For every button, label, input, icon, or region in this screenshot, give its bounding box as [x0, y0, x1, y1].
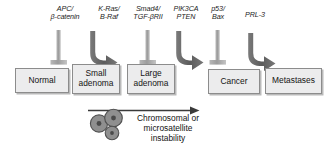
gene-label-kras: K-Ras/ B-Raf — [90, 5, 128, 22]
cell-cluster — [90, 109, 122, 140]
gene-label-p53: p53/ Bax — [203, 5, 233, 22]
connector-elbow-prl3 — [248, 33, 275, 71]
gene-label-smad4: Smad4/ TGF-βRII — [126, 5, 170, 22]
connector-elbow-pik3ca — [176, 31, 203, 70]
connector-tbar-smad4 — [140, 30, 157, 65]
gene-label-pik3ca: PIK3CA PTEN — [166, 5, 206, 22]
connector-tbar-apc — [51, 30, 68, 65]
instability-caption: Chromosomal or microsatellite instabilit… — [126, 114, 210, 143]
stage-box-normal[interactable]: Normal — [15, 68, 69, 93]
cell-1 — [90, 115, 107, 132]
cell-2 — [105, 109, 123, 127]
figure-canvas: APC/ β-catenin K-Ras/ B-Raf Smad4/ TGF-β… — [0, 0, 333, 152]
gene-label-prl3: PRL-3 — [234, 11, 276, 19]
stage-box-metastases[interactable]: Metastases — [265, 68, 322, 94]
cell-3 — [105, 126, 119, 140]
stage-box-large-adenoma[interactable]: Large adenoma — [127, 64, 175, 94]
gene-label-apc: APC/ β-catenin — [44, 5, 86, 22]
stage-box-cancer[interactable]: Cancer — [208, 69, 260, 94]
stage-box-small-adenoma[interactable]: Small adenoma — [72, 64, 120, 94]
connector-tbar-p53 — [210, 30, 227, 65]
